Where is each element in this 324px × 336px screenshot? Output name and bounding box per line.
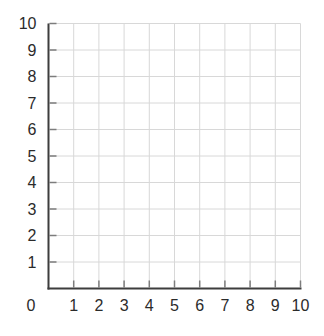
x-tick-label: 5 — [170, 297, 179, 314]
origin-label: 0 — [27, 297, 36, 314]
x-tick-label: 9 — [271, 297, 280, 314]
x-tick-label: 7 — [220, 297, 229, 314]
y-tick-label: 5 — [28, 148, 37, 165]
x-tick-label: 3 — [120, 297, 129, 314]
x-tick-label: 4 — [145, 297, 154, 314]
x-tick-label: 6 — [195, 297, 204, 314]
y-tick-label: 3 — [28, 201, 37, 218]
y-tick-label: 2 — [28, 227, 37, 244]
y-tick-label: 8 — [28, 68, 37, 85]
y-tick-label: 9 — [28, 42, 37, 59]
x-tick-label: 10 — [292, 297, 310, 314]
y-tick-label: 4 — [28, 174, 37, 191]
x-tick-label: 2 — [94, 297, 103, 314]
x-tick-label: 8 — [246, 297, 255, 314]
x-tick-label: 1 — [69, 297, 78, 314]
y-tick-label: 1 — [28, 254, 37, 271]
y-tick-label: 10 — [19, 15, 37, 32]
y-tick-label: 7 — [28, 95, 37, 112]
y-tick-label: 6 — [28, 121, 37, 138]
coordinate-grid-chart: 12345678910123456789100 — [0, 0, 324, 336]
chart-canvas: 12345678910123456789100 — [0, 0, 324, 336]
